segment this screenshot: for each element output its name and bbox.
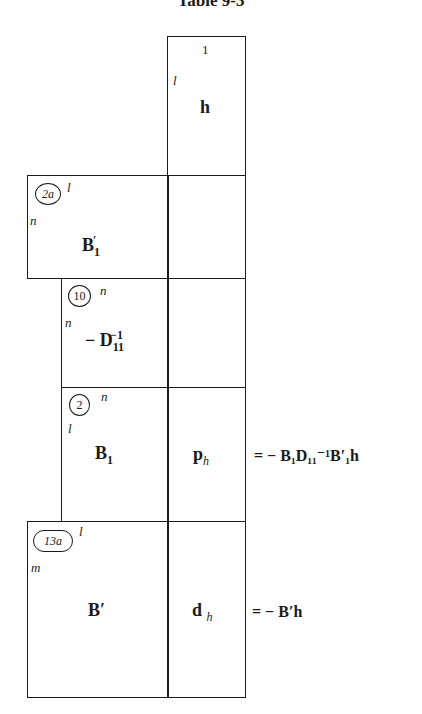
row-dim-label: l <box>68 421 72 437</box>
matrix-label: B′ <box>88 600 105 621</box>
col-dim-label: n <box>101 389 108 405</box>
step-badge: 10 <box>68 285 91 307</box>
h-matrix-label: h <box>200 97 210 118</box>
row-dim-label: n <box>30 213 37 229</box>
p-h-result-formula: = − B₁D₁₁⁻¹B′₁h <box>254 446 359 465</box>
step-badge: 2 <box>69 394 90 416</box>
col-dim-label: n <box>100 283 107 299</box>
row-dim-label: l <box>173 73 177 89</box>
row-dim-label: m <box>31 560 40 576</box>
d-h-result-formula: = − B′h <box>252 603 302 621</box>
matrix-label: B1′ <box>82 235 96 256</box>
step-badge: 2a <box>35 183 61 205</box>
col-dim-label: l <box>67 180 71 196</box>
matrix-label: B1 <box>95 443 113 464</box>
empty-cell <box>167 278 246 388</box>
row-dim-label: n <box>65 315 72 331</box>
col-dim-label: l <box>79 524 83 540</box>
table-title: Table 9-3 <box>0 0 422 11</box>
matrix-label: − D11−1 <box>85 330 123 351</box>
p-h-label: ph <box>193 444 209 465</box>
col-dim-label: 1 <box>202 42 209 58</box>
step-badge: 13a <box>33 530 73 552</box>
empty-cell <box>167 175 246 279</box>
d-h-label: d h <box>192 600 213 621</box>
